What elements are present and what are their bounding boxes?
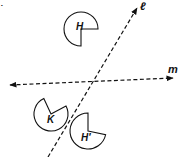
shape-h-label: H (76, 21, 84, 32)
corner-mark: . (1, 0, 3, 8)
diagram-canvas: ℓm HKH′ . (0, 0, 181, 157)
line-m-label: m (168, 63, 178, 75)
shape-k-label: K (47, 114, 55, 125)
shape-h-prime-label: H′ (81, 132, 91, 143)
shape-h-prime (70, 113, 106, 149)
reflection-diagram: ℓm HKH′ . (0, 0, 181, 157)
line-l-label: ℓ (140, 0, 146, 12)
